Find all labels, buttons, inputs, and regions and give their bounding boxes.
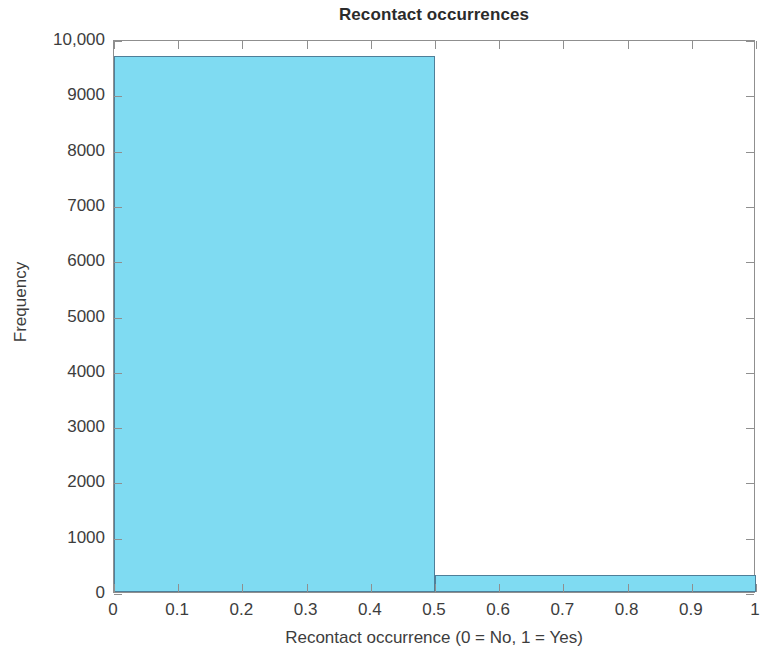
histogram-bar xyxy=(114,56,435,592)
histogram-bar xyxy=(435,575,756,592)
y-axis-tick xyxy=(114,318,122,319)
x-axis-tick xyxy=(628,584,629,592)
x-axis-tick-top xyxy=(692,41,693,49)
y-axis-title: Frequency xyxy=(11,202,31,402)
x-axis-tick-top xyxy=(307,41,308,49)
y-axis-tick-right xyxy=(746,483,754,484)
y-axis-tick xyxy=(114,373,122,374)
y-axis-tick-right xyxy=(746,152,754,153)
x-axis-tick-top xyxy=(371,41,372,49)
y-axis-tick-label: 8000 xyxy=(5,141,105,161)
x-axis-tick xyxy=(371,584,372,592)
x-axis-tick xyxy=(563,584,564,592)
plot-area xyxy=(113,40,755,593)
y-axis-tick-right xyxy=(746,373,754,374)
x-axis-tick-top xyxy=(499,41,500,49)
y-axis-tick-label: 1000 xyxy=(5,528,105,548)
x-axis-tick-top xyxy=(563,41,564,49)
y-axis-tick xyxy=(114,96,122,97)
y-axis-tick xyxy=(114,594,122,595)
y-axis-tick-right xyxy=(746,207,754,208)
x-axis-tick-labels: 00.10.20.30.40.50.60.70.80.91 xyxy=(113,600,755,624)
y-axis-tick-right xyxy=(746,262,754,263)
y-axis-tick xyxy=(114,152,122,153)
y-axis-tick-label: 2000 xyxy=(5,472,105,492)
x-axis-tick xyxy=(242,584,243,592)
y-axis-tick-right xyxy=(746,594,754,595)
x-axis-tick-top xyxy=(435,41,436,49)
x-axis-tick-top xyxy=(242,41,243,49)
x-axis-tick-top xyxy=(628,41,629,49)
x-axis-tick-top xyxy=(178,41,179,49)
x-axis-tick-top xyxy=(114,41,115,49)
page-title: Recontact occurrences xyxy=(113,5,755,25)
y-axis-tick-right xyxy=(746,41,754,42)
bars-layer xyxy=(114,41,754,592)
y-axis-tick-right xyxy=(746,539,754,540)
y-axis-tick-label: 9000 xyxy=(5,85,105,105)
y-axis-tick xyxy=(114,262,122,263)
x-axis-tick xyxy=(435,584,436,592)
y-axis-tick xyxy=(114,207,122,208)
y-axis-tick xyxy=(114,483,122,484)
x-axis-tick xyxy=(114,584,115,592)
x-axis-tick xyxy=(756,584,757,592)
x-axis-tick xyxy=(307,584,308,592)
y-axis-tick-label: 10,000 xyxy=(5,30,105,50)
y-axis-tick-right xyxy=(746,318,754,319)
y-axis-tick-right xyxy=(746,96,754,97)
x-axis-tick-top xyxy=(756,41,757,49)
x-axis-tick xyxy=(178,584,179,592)
y-axis-tick xyxy=(114,428,122,429)
histogram-figure: Recontact occurrences 010002000300040005… xyxy=(0,0,769,660)
x-axis-title: Recontact occurrence (0 = No, 1 = Yes) xyxy=(113,628,755,648)
y-axis-tick-right xyxy=(746,428,754,429)
x-axis-tick-label: 1 xyxy=(715,600,769,620)
y-axis-tick-label: 3000 xyxy=(5,417,105,437)
y-axis-tick xyxy=(114,539,122,540)
x-axis-tick xyxy=(499,584,500,592)
x-axis-tick xyxy=(692,584,693,592)
y-axis-tick xyxy=(114,41,122,42)
